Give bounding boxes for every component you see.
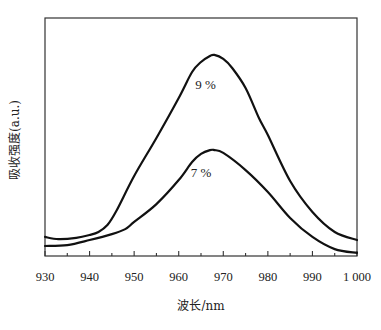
x-tick-label: 1 000 bbox=[343, 270, 371, 284]
x-axis-ticks bbox=[45, 251, 357, 256]
x-tick-label: 930 bbox=[36, 270, 55, 284]
x-tick-label: 990 bbox=[303, 270, 322, 284]
x-tick-label: 980 bbox=[258, 270, 277, 284]
series-label: 9 % bbox=[195, 77, 216, 92]
x-axis-title: 波长/nm bbox=[177, 299, 225, 313]
x-tick-label: 960 bbox=[169, 270, 188, 284]
x-tick-label: 950 bbox=[125, 270, 144, 284]
series-label: 7 % bbox=[191, 165, 212, 180]
series-labels: 9 %7 % bbox=[191, 77, 216, 180]
y-axis-title: 吸收强度(a.u.) bbox=[7, 100, 22, 180]
x-tick-label: 940 bbox=[80, 270, 99, 284]
absorption-spectrum-chart: 9309409509609709809901 000 9 %7 % 波长/nm … bbox=[0, 0, 381, 330]
x-tick-label: 970 bbox=[214, 270, 233, 284]
plot-frame bbox=[45, 18, 357, 256]
x-axis-tick-labels: 9309409509609709809901 000 bbox=[36, 270, 371, 284]
